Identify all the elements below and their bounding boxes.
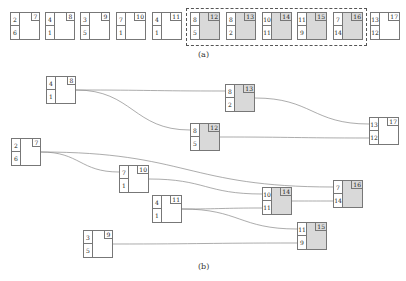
node-bottom-value: 2 <box>226 98 234 111</box>
node-7: 267 <box>11 138 41 166</box>
node-bottom-value: 12 <box>370 131 378 144</box>
node-id-label: 13 <box>243 85 254 93</box>
caption-b: (b) <box>198 262 209 271</box>
node-id-label: 9 <box>104 231 112 239</box>
node-top-value: 3 <box>84 231 92 244</box>
node-8: 418 <box>46 76 76 104</box>
node-13: 8213 <box>225 84 255 112</box>
node-bottom-value: 1 <box>47 90 55 103</box>
node-id-label: 7 <box>32 139 40 147</box>
edge-8-to-12 <box>76 90 190 130</box>
node-id-label: 11 <box>170 196 181 204</box>
node-id-label: 16 <box>351 181 362 189</box>
edge-9-to-15 <box>113 243 297 244</box>
node-bottom-value: 6 <box>12 152 20 165</box>
node-top-value: 11 <box>298 223 306 236</box>
node-14: 101114 <box>262 187 292 215</box>
node-id-label: 14 <box>280 188 291 196</box>
node-bottom-value: 1 <box>153 209 161 222</box>
node-15: 11915 <box>297 222 327 250</box>
edge-7-to-16 <box>41 152 333 187</box>
node-top-value: 7 <box>120 166 128 179</box>
node-bottom-value: 5 <box>84 244 92 257</box>
node-9: 359 <box>83 230 113 258</box>
node-top-value: 8 <box>226 85 234 98</box>
node-top-value: 4 <box>47 77 55 90</box>
node-id-label: 8 <box>67 77 75 85</box>
node-top-value: 10 <box>263 188 271 201</box>
node-top-value: 13 <box>370 118 378 131</box>
node-11: 4111 <box>152 195 182 223</box>
edge-13-to-17 <box>255 98 369 124</box>
node-top-value: 7 <box>334 181 342 194</box>
node-bottom-value: 9 <box>298 236 306 249</box>
edge-12-to-17 <box>220 137 369 138</box>
node-10: 7110 <box>119 165 149 193</box>
edge-11-to-14 <box>182 208 262 209</box>
edge-8-to-13 <box>76 90 225 91</box>
node-top-value: 2 <box>12 139 20 152</box>
node-top-value: 8 <box>191 124 199 137</box>
node-bottom-value: 5 <box>191 137 199 150</box>
node-top-value: 4 <box>153 196 161 209</box>
node-16: 71416 <box>333 180 363 208</box>
node-bottom-value: 14 <box>334 194 342 207</box>
node-bottom-value: 11 <box>263 201 271 214</box>
node-id-label: 15 <box>315 223 326 231</box>
node-id-label: 10 <box>137 166 148 174</box>
node-bottom-value: 1 <box>120 179 128 192</box>
node-17: 131217 <box>369 117 399 145</box>
node-id-label: 12 <box>208 124 219 132</box>
node-id-label: 17 <box>387 118 398 126</box>
node-12: 8512 <box>190 123 220 151</box>
